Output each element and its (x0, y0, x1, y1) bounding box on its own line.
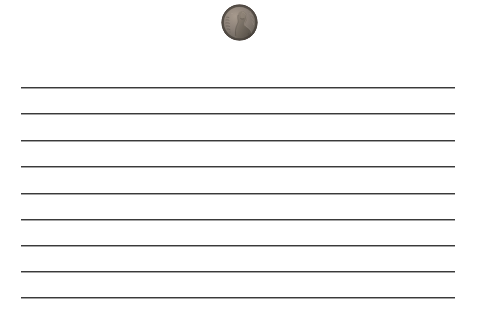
rule-line (21, 140, 455, 141)
rule-line (21, 271, 455, 272)
rule-line (21, 245, 455, 246)
penny-coin (221, 4, 258, 41)
rule-line (21, 166, 455, 167)
ruled-paper-sheet (0, 0, 477, 315)
rule-line (21, 297, 455, 298)
scene-canvas: Ruled notebook paper with a US one-cent … (0, 0, 477, 315)
rule-line (21, 219, 455, 220)
rule-line (21, 193, 455, 194)
rule-line (21, 113, 455, 114)
rule-line (21, 87, 455, 88)
